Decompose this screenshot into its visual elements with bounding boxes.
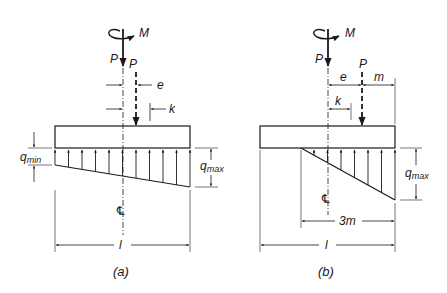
kern-label: k bbox=[169, 102, 176, 116]
eccentricity-label: e bbox=[157, 78, 164, 92]
moment-icon bbox=[314, 30, 339, 39]
moment-label: M bbox=[139, 26, 149, 40]
eccentric-load-label: P bbox=[129, 57, 137, 71]
caption-b: (b) bbox=[318, 264, 334, 279]
pressure-line bbox=[301, 148, 395, 200]
panel-b: M P ℄ P e m k bbox=[260, 26, 429, 279]
footing-pressure-diagram: M P ℄ P e k bbox=[0, 0, 447, 293]
moment-label: M bbox=[345, 26, 355, 40]
panel-a: M P ℄ P e k bbox=[20, 26, 224, 279]
q-max-label: qmax bbox=[200, 159, 224, 174]
edge-distance-label: m bbox=[374, 70, 384, 84]
q-min-label: qmin bbox=[20, 150, 41, 165]
length-label: l bbox=[119, 238, 122, 252]
footing bbox=[260, 126, 395, 148]
length-label: l bbox=[325, 238, 328, 252]
footing bbox=[55, 126, 190, 148]
centerline-label: ℄ bbox=[116, 204, 125, 218]
load-label: P bbox=[315, 52, 323, 66]
eccentricity-label: e bbox=[340, 70, 347, 84]
q-max-label: qmax bbox=[405, 166, 429, 181]
eccentric-load-label: P bbox=[359, 57, 367, 71]
caption-a: (a) bbox=[113, 264, 129, 279]
centerline-label: ℄ bbox=[321, 192, 330, 206]
load-label: P bbox=[110, 52, 118, 66]
contact-length-label: 3m bbox=[339, 214, 356, 228]
kern-label: k bbox=[335, 94, 342, 108]
moment-icon bbox=[109, 30, 134, 39]
